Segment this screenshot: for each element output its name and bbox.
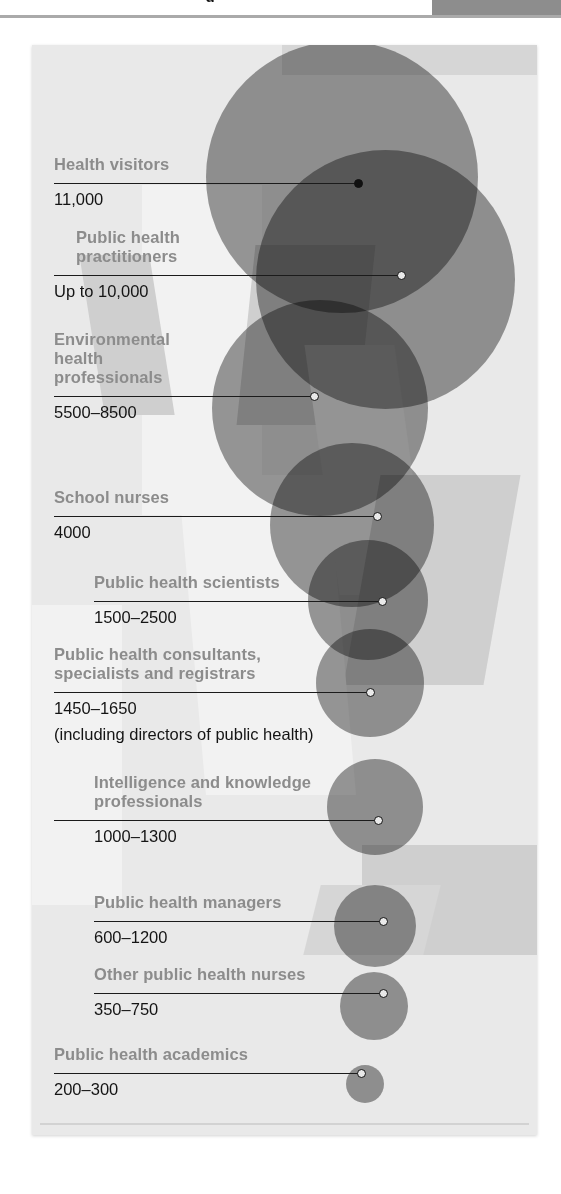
leader-dot-public-health-practitioners: [397, 271, 406, 280]
leader-intelligence-and-knowledge: [54, 820, 377, 821]
leader-public-health-scientists: [94, 601, 381, 602]
bubble-public-health-consultants[interactable]: [316, 629, 424, 737]
page-header-text: g: [150, 0, 270, 2]
value-school-nurses: 4000: [54, 523, 91, 542]
value-health-visitors: 11,000: [54, 190, 103, 209]
label-environmental-health-professionals-line3: professionals: [54, 368, 163, 388]
label-other-public-health-nurses: Other public health nurses: [94, 965, 306, 985]
bubble-intelligence-and-knowledge[interactable]: [327, 759, 423, 855]
label-public-health-managers: Public health managers: [94, 893, 281, 913]
bubble-other-public-health-nurses[interactable]: [340, 972, 408, 1040]
page-header-remnant: g: [0, 0, 561, 22]
value-environmental-health-professionals: 5500–8500: [54, 403, 137, 422]
page-header-rule: [0, 15, 561, 18]
leader-other-public-health-nurses: [94, 993, 382, 994]
leader-public-health-managers: [94, 921, 382, 922]
label-public-health-academics: Public health academics: [54, 1045, 248, 1065]
label-public-health-consultants-line1: Public health consultants,: [54, 645, 261, 665]
label-intelligence-and-knowledge-line1: Intelligence and knowledge: [94, 773, 311, 793]
leader-dot-public-health-consultants: [366, 688, 375, 697]
bubble-public-health-managers[interactable]: [334, 885, 416, 967]
page-header-block: [432, 0, 561, 15]
leader-dot-intelligence-and-knowledge: [374, 816, 383, 825]
value-other-public-health-nurses: 350–750: [94, 1000, 158, 1019]
label-environmental-health-professionals-line1: Environmental: [54, 330, 170, 350]
label-environmental-health-professionals-line2: health: [54, 349, 103, 369]
leader-public-health-consultants: [54, 692, 369, 693]
leader-dot-public-health-academics: [357, 1069, 366, 1078]
value-public-health-managers: 600–1200: [94, 928, 167, 947]
leader-school-nurses: [54, 516, 376, 517]
leader-dot-health-visitors: [354, 179, 363, 188]
value-public-health-academics: 200–300: [54, 1080, 118, 1099]
subnote-public-health-consultants: (including directors of public health): [54, 725, 314, 744]
figure-bottom-rule: [40, 1123, 529, 1125]
leader-health-visitors: [54, 183, 357, 184]
label-public-health-scientists: Public health scientists: [94, 573, 280, 593]
value-public-health-scientists: 1500–2500: [94, 608, 177, 627]
leader-dot-other-public-health-nurses: [379, 989, 388, 998]
value-intelligence-and-knowledge: 1000–1300: [94, 827, 177, 846]
leader-dot-school-nurses: [373, 512, 382, 521]
leader-dot-public-health-managers: [379, 917, 388, 926]
bubble-chart-figure: Health visitors 11,000 Public health pra…: [32, 45, 537, 1135]
value-public-health-practitioners: Up to 10,000: [54, 282, 149, 301]
value-public-health-consultants: 1450–1650: [54, 699, 137, 718]
label-public-health-practitioners-line2: practitioners: [76, 247, 177, 267]
leader-environmental-health-professionals: [54, 396, 313, 397]
leader-public-health-practitioners: [54, 275, 400, 276]
leader-dot-public-health-scientists: [378, 597, 387, 606]
label-public-health-practitioners-line1: Public health: [76, 228, 180, 248]
label-school-nurses: School nurses: [54, 488, 169, 508]
leader-dot-environmental-health-professionals: [310, 392, 319, 401]
label-intelligence-and-knowledge-line2: professionals: [94, 792, 203, 812]
label-public-health-consultants-line2: specialists and registrars: [54, 664, 256, 684]
label-health-visitors: Health visitors: [54, 155, 169, 175]
leader-public-health-academics: [54, 1073, 358, 1074]
